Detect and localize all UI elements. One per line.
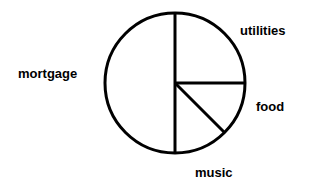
pie-chart: mortgage utilities food music — [0, 0, 310, 190]
pie-label-mortgage: mortgage — [18, 66, 77, 81]
pie-label-utilities: utilities — [240, 23, 286, 38]
pie-label-music: music — [195, 165, 233, 180]
pie-label-food: food — [256, 99, 284, 114]
